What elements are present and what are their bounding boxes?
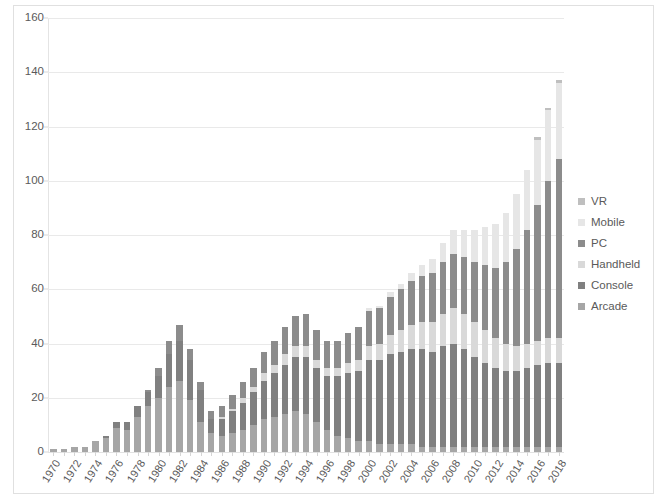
bar-segment-mobile-2012: [492, 224, 499, 267]
stacked-bar-1980[interactable]: [155, 368, 162, 452]
stacked-bar-2008[interactable]: [450, 230, 457, 452]
stacked-bar-1992[interactable]: [282, 327, 289, 452]
stacked-bar-2001[interactable]: [376, 306, 383, 452]
bar-segment-arcade-1980: [155, 398, 162, 452]
stacked-bar-1986[interactable]: [219, 406, 226, 452]
bar-segment-handheld-2012: [492, 338, 499, 368]
stacked-bar-2002[interactable]: [387, 292, 394, 452]
stacked-bar-2000[interactable]: [366, 308, 373, 452]
bar-segment-arcade-1999: [355, 441, 362, 452]
stacked-bar-1996[interactable]: [324, 341, 331, 452]
x-axis-label-slot-1976: 1976: [111, 456, 122, 502]
bar-segment-console-1983: [187, 360, 194, 401]
stacked-bar-1985[interactable]: [208, 411, 215, 452]
stacked-bar-1984[interactable]: [197, 382, 204, 453]
legend-item-label: Mobile: [591, 217, 625, 229]
stacked-bar-2007[interactable]: [440, 243, 447, 452]
y-axis-tick-label-80: 80: [2, 229, 44, 241]
stacked-bar-1979[interactable]: [145, 390, 152, 452]
legend-item-vr[interactable]: VR: [578, 191, 652, 212]
stacked-bar-2012[interactable]: [492, 224, 499, 452]
bar-segment-mobile-2015: [524, 170, 531, 230]
bar-slot-2005: [417, 18, 428, 452]
stacked-bar-1976[interactable]: [113, 422, 120, 452]
bar-slot-2002: [385, 18, 396, 452]
stacked-bar-2004[interactable]: [408, 273, 415, 452]
bar-segment-arcade-1992: [282, 414, 289, 452]
legend-item-label: VR: [591, 196, 607, 208]
stacked-bar-1974[interactable]: [92, 441, 99, 452]
legend-item-console[interactable]: Console: [578, 275, 652, 296]
stacked-bar-1999[interactable]: [355, 327, 362, 452]
stacked-bar-1987[interactable]: [229, 395, 236, 452]
bar-segment-console-2006: [429, 352, 436, 447]
stacked-bar-1995[interactable]: [313, 330, 320, 452]
stacked-bar-2013[interactable]: [503, 213, 510, 452]
legend-swatch-handheld-icon: [578, 261, 585, 268]
bar-segment-pc-2017: [545, 181, 552, 338]
bar-segment-mobile-2005: [419, 265, 426, 276]
stacked-bar-2011[interactable]: [482, 227, 489, 452]
bar-slot-1984: [195, 18, 206, 452]
stacked-bar-1993[interactable]: [292, 316, 299, 452]
stacked-bar-2015[interactable]: [524, 170, 531, 452]
stacked-bar-2005[interactable]: [419, 265, 426, 452]
x-axis-label-slot-1982: 1982: [174, 456, 185, 502]
bar-segment-pc-1999: [355, 327, 362, 360]
bar-segment-arcade-1993: [292, 411, 299, 452]
bar-slot-1972: [69, 18, 80, 452]
bar-segment-console-2003: [398, 352, 405, 444]
stacked-bar-1997[interactable]: [334, 341, 341, 452]
bar-segment-console-2009: [461, 349, 468, 447]
stacked-bar-1983[interactable]: [187, 349, 194, 452]
stacked-bar-2018[interactable]: [556, 80, 563, 452]
stacked-bar-1981[interactable]: [166, 341, 173, 452]
stacked-bar-1989[interactable]: [250, 368, 257, 452]
bar-segment-handheld-1997: [334, 368, 341, 376]
legend-item-arcade[interactable]: Arcade: [578, 296, 652, 317]
stacked-bar-1991[interactable]: [271, 341, 278, 452]
stacked-bar-1975[interactable]: [103, 436, 110, 452]
bar-segment-console-1980: [155, 376, 162, 398]
stacked-bar-2009[interactable]: [461, 230, 468, 452]
bar-segment-console-2002: [387, 354, 394, 444]
stacked-bar-1977[interactable]: [124, 422, 131, 452]
stacked-bar-1978[interactable]: [134, 406, 141, 452]
bar-segment-console-1990: [261, 381, 268, 419]
bar-segment-pc-2015: [524, 230, 531, 344]
bar-segment-pc-1988: [240, 382, 247, 398]
legend-item-handheld[interactable]: Handheld: [578, 254, 652, 275]
stacked-bar-1990[interactable]: [261, 352, 268, 452]
bar-segment-handheld-1996: [324, 368, 331, 376]
bar-segment-mobile-2018: [556, 83, 563, 159]
bar-segment-mobile-2008: [450, 230, 457, 254]
bar-segment-arcade-1998: [345, 438, 352, 452]
bar-segment-arcade-1979: [145, 406, 152, 452]
bar-segment-arcade-2001: [376, 444, 383, 452]
legend-item-pc[interactable]: PC: [578, 233, 652, 254]
stacked-bar-2006[interactable]: [429, 259, 436, 452]
legend-item-mobile[interactable]: Mobile: [578, 212, 652, 233]
stacked-bar-1998[interactable]: [345, 333, 352, 452]
stacked-bar-1994[interactable]: [303, 314, 310, 452]
stacked-bar-2014[interactable]: [513, 194, 520, 452]
bar-segment-pc-1981: [166, 341, 173, 355]
bar-segment-console-1988: [240, 403, 247, 430]
bar-segment-console-1996: [324, 376, 331, 430]
x-axis-label-slot-1980: 1980: [153, 456, 164, 502]
stacked-bar-2017[interactable]: [545, 108, 552, 452]
bar-segment-console-1982: [176, 341, 183, 382]
bar-segment-arcade-1997: [334, 436, 341, 452]
bar-slot-1979: [143, 18, 154, 452]
stacked-bar-2010[interactable]: [471, 230, 478, 452]
bar-segment-pc-1980: [155, 368, 162, 376]
stacked-bar-1988[interactable]: [240, 382, 247, 453]
stacked-bar-2016[interactable]: [534, 137, 541, 452]
bar-slot-2006: [427, 18, 438, 452]
stacked-bar-2003[interactable]: [398, 284, 405, 452]
stacked-bar-1982[interactable]: [176, 325, 183, 452]
bar-segment-pc-2004: [408, 281, 415, 324]
bar-segment-pc-2002: [387, 297, 394, 335]
bar-slot-2012: [490, 18, 501, 452]
legend-swatch-mobile-icon: [578, 219, 585, 226]
